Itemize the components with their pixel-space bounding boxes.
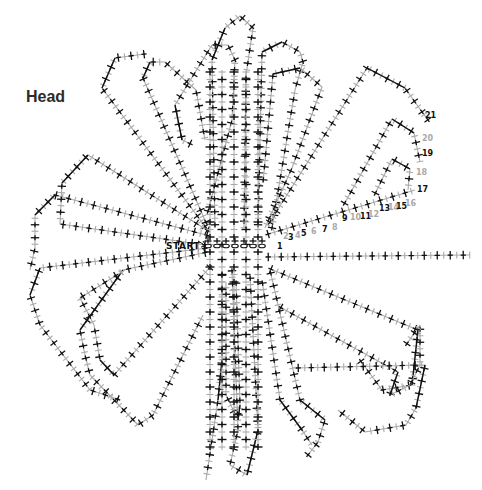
petals-layer xyxy=(27,15,470,480)
chain-stitch-icon xyxy=(214,244,221,248)
round-number: 18 xyxy=(416,168,428,177)
crochet-stitch-chart: 123456789101112131415161718192021 START xyxy=(0,0,482,490)
center-stitch-grid xyxy=(206,69,263,450)
petal-top-right-1 xyxy=(259,65,324,228)
petal-bottom-1 xyxy=(267,270,328,457)
round-number: 17 xyxy=(417,185,428,194)
petal-right-small-2 xyxy=(372,157,414,196)
petal-right-bottom-3 xyxy=(295,361,428,434)
round-number: 21 xyxy=(425,111,437,120)
round-number: 5 xyxy=(301,229,307,238)
chain-stitch-icon xyxy=(241,244,248,248)
petal-bottom-2 xyxy=(258,280,314,445)
chain-stitch-icon xyxy=(223,244,230,248)
petal-top-left-3 xyxy=(172,41,239,215)
round-number: 16 xyxy=(405,199,417,208)
start-label: START xyxy=(166,241,200,251)
round-number: 3 xyxy=(288,233,294,242)
petal-top-left-2 xyxy=(140,58,210,225)
petal-right-long xyxy=(265,251,470,261)
petal-bottom-4 xyxy=(204,272,227,480)
petal-right-bottom-2 xyxy=(278,304,424,397)
petal-right-small-1 xyxy=(341,118,423,206)
round-number: 6 xyxy=(311,227,317,236)
starting-chain xyxy=(205,238,266,248)
round-number: 8 xyxy=(332,223,338,232)
petal-left-bottom-3 xyxy=(78,265,213,377)
chain-stitch-icon xyxy=(259,244,266,248)
round-number: 12 xyxy=(368,210,379,219)
round-number: 20 xyxy=(422,134,434,143)
round-number: 19 xyxy=(422,149,434,158)
round-number: 9 xyxy=(342,214,348,223)
round-number: 1 xyxy=(277,242,283,251)
chain-stitch-icon xyxy=(232,244,239,248)
round-number: 7 xyxy=(322,225,328,234)
petal-left-bottom-1 xyxy=(27,244,208,403)
chain-stitch-icon xyxy=(250,244,257,248)
